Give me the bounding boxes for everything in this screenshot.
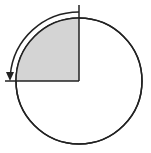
shaded-quarter-sector [16,18,79,81]
quarter-circle-diagram [0,0,151,153]
rotation-arrowhead-icon [6,72,14,81]
